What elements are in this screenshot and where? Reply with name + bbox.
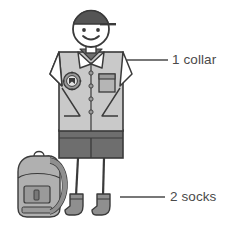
illustration-canvas: 1 collar 2 socks [0,0,241,232]
legs [76,158,104,196]
head [73,11,116,47]
shorts [59,130,123,158]
backpack [18,152,67,218]
annotation-label-collar: 1 collar [172,53,216,67]
socks [65,194,110,215]
shirt-pocket [99,74,115,92]
annotation-label-socks: 2 socks [170,190,216,204]
